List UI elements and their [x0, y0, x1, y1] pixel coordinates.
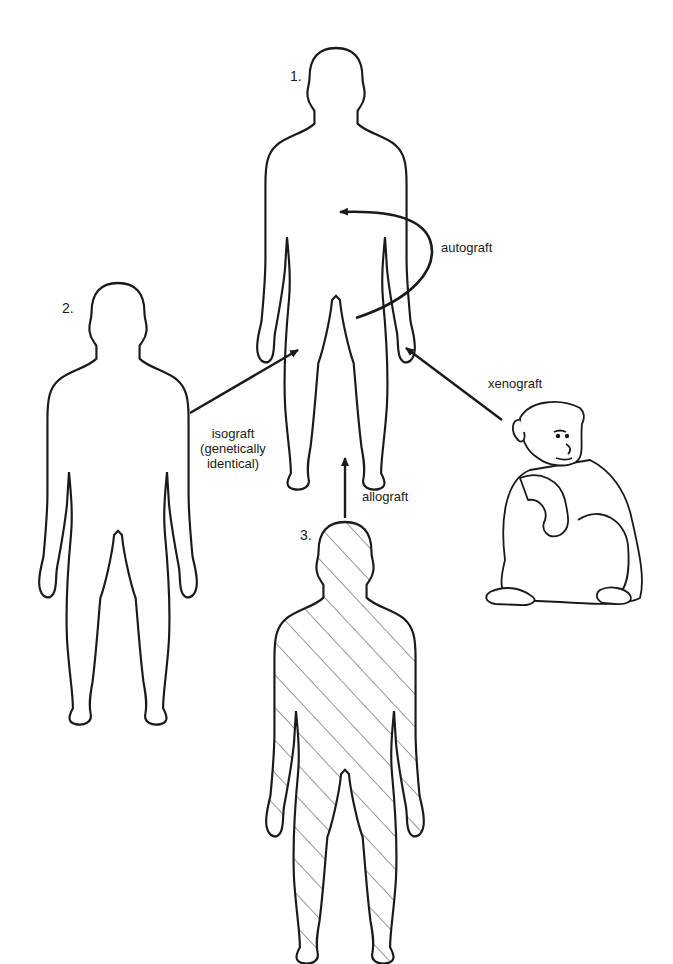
xenograft-label: xenograft [488, 376, 542, 391]
figure-2-number: 2. [62, 301, 74, 316]
isograft-label: isograft (genetically identical) [183, 426, 283, 471]
allogeneic-donor-figure [266, 522, 424, 964]
figure-3-number: 3. [300, 528, 312, 543]
allograft-label: allograft [362, 489, 408, 504]
isograft-label-note-line-2: identical) [183, 456, 283, 471]
recipient-figure [257, 48, 415, 490]
identical-twin-figure [39, 283, 197, 725]
chimpanzee-figure [486, 402, 642, 605]
autograft-label: autograft [441, 240, 492, 255]
isograft-arrow [190, 350, 298, 413]
graft-types-diagram [0, 0, 673, 964]
isograft-label-note-line-1: (genetically [183, 441, 283, 456]
isograft-label-title: isograft [183, 426, 283, 441]
figure-1-number: 1. [290, 69, 302, 84]
